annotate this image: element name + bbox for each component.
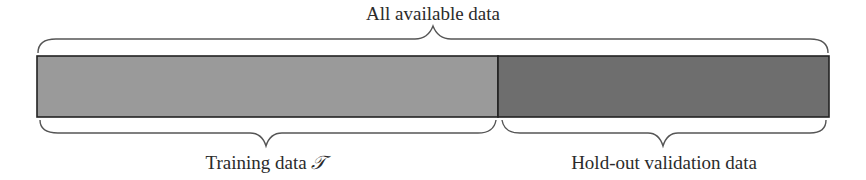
training-segment <box>37 56 498 117</box>
holdout-segment <box>498 56 829 117</box>
training-data-text: Training data <box>206 152 307 173</box>
holdout-brace <box>502 120 826 146</box>
training-brace <box>40 120 496 146</box>
all-data-label: All available data <box>366 4 500 23</box>
training-data-label: Training data 𝒯 <box>206 153 327 172</box>
holdout-data-label: Hold-out validation data <box>571 153 757 172</box>
training-set-symbol: 𝒯 <box>311 151 326 173</box>
top-brace <box>38 26 828 53</box>
